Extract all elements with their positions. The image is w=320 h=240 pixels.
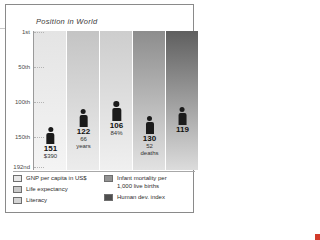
column-life[interactable]: [67, 31, 100, 170]
legend-swatch-icon: [104, 175, 113, 182]
legend-label: GNP per capita in US$: [26, 175, 87, 183]
gridline-150th: [34, 137, 44, 138]
value-sub2: deaths: [140, 150, 158, 156]
datapoint-infant[interactable]: 130 52 deaths: [140, 116, 158, 156]
datapoint-life[interactable]: 122 66 years: [76, 109, 91, 149]
gridline-192nd: [34, 167, 44, 168]
legend-item-infant-mortality[interactable]: Infant mortality per 1,000 live births: [104, 175, 195, 190]
person-icon: [44, 127, 57, 144]
legend-label: Human dev. index: [117, 194, 165, 202]
legend-swatch-icon: [13, 175, 22, 182]
legend-divider: [13, 171, 195, 172]
value-label: 130: [140, 135, 158, 143]
legend-column-left: GNP per capita in US$ Life expectancy Li…: [13, 175, 104, 215]
datapoint-literacy[interactable]: 106 84%: [110, 101, 123, 136]
value-sub2: years: [76, 143, 91, 149]
legend-item-gnp[interactable]: GNP per capita in US$: [13, 175, 104, 183]
legend-label-line2: 1,000 live births: [117, 183, 167, 191]
y-tick-50th: 50th: [6, 64, 33, 70]
value-label: 122: [76, 128, 91, 136]
y-axis: 1st 50th 100th 150th 192nd: [6, 31, 33, 170]
chart-frame: Position in World 1st 50th 100th 150th 1…: [5, 4, 194, 213]
value-label: 119: [176, 126, 189, 134]
left-edge-tick: [0, 28, 5, 29]
legend-label: Infant mortality per: [117, 175, 167, 183]
gridline-50th: [34, 67, 44, 68]
legend-label: Life expectancy: [26, 186, 68, 194]
value-label: 151: [44, 145, 57, 153]
y-tick-100th: 100th: [6, 99, 33, 105]
y-tick-192nd: 192nd: [6, 164, 33, 170]
legend-item-literacy[interactable]: Literacy: [13, 197, 104, 205]
person-icon: [176, 107, 189, 125]
legend-item-hdi[interactable]: Human dev. index: [104, 194, 195, 202]
gridline-1st: [34, 32, 44, 33]
legend-item-life[interactable]: Life expectancy: [13, 186, 104, 194]
person-icon: [110, 101, 123, 121]
chart-title: Position in World: [36, 17, 97, 26]
column-hdi[interactable]: [166, 31, 198, 170]
person-icon: [76, 109, 91, 127]
y-tick-150th: 150th: [6, 134, 33, 140]
legend: GNP per capita in US$ Life expectancy Li…: [13, 175, 195, 215]
gridline-100th: [34, 102, 44, 103]
person-icon: [140, 116, 158, 134]
y-tick-1st: 1st: [6, 29, 33, 35]
legend-column-right: Infant mortality per 1,000 live births H…: [104, 175, 195, 215]
legend-label: Literacy: [26, 197, 47, 205]
legend-swatch-icon: [104, 194, 113, 201]
value-label: 106: [110, 122, 123, 130]
plot-area: 151 $390 122 66 years 106 84%: [33, 31, 198, 170]
legend-swatch-icon: [13, 186, 22, 193]
value-sub1: 84%: [110, 130, 123, 136]
datapoint-gnp[interactable]: 151 $390: [44, 127, 57, 160]
value-sub1: $390: [44, 153, 57, 159]
datapoint-hdi[interactable]: 119: [176, 107, 189, 134]
legend-swatch-icon: [13, 197, 22, 204]
